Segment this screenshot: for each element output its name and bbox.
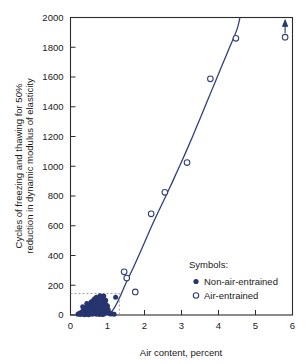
data-point-air-entrained <box>282 34 288 40</box>
y-tick-label: 200 <box>48 280 64 291</box>
legend-marker-non-air-entrained <box>193 279 198 284</box>
data-point-non-air-entrained <box>84 301 89 306</box>
legend-label-air-entrained: Air-entrained <box>204 290 258 301</box>
data-point-non-air-entrained <box>101 312 106 317</box>
x-tick-label: 1 <box>105 320 110 331</box>
data-point-air-entrained <box>162 189 168 195</box>
x-tick-label: 6 <box>290 320 295 331</box>
legend-title: Symbols: <box>189 259 228 270</box>
y-tick-label: 1000 <box>42 161 63 172</box>
chart-figure: 0200400600800100012001400160018002000 01… <box>0 0 306 364</box>
y-axis-title-line-1: Cycles of freezing and thawing for 50% <box>13 83 24 248</box>
x-tick-label: 3 <box>179 320 184 331</box>
x-tick-label: 4 <box>216 320 221 331</box>
y-axis-title-line-2: reduction in dynamic modulus of elastici… <box>24 78 35 254</box>
data-point-non-air-entrained <box>95 298 100 303</box>
y-tick-label: 2000 <box>42 12 63 23</box>
x-tick-label: 0 <box>68 320 73 331</box>
data-point-non-air-entrained <box>112 312 117 317</box>
data-point-non-air-entrained <box>113 295 118 300</box>
y-tick-label: 600 <box>48 220 64 231</box>
x-axis-title: Air content, percent <box>140 347 223 358</box>
data-point-air-entrained <box>184 160 190 166</box>
y-tick-label: 800 <box>48 190 64 201</box>
legend-marker-air-entrained <box>193 293 198 298</box>
y-tick-label: 400 <box>48 250 64 261</box>
data-point-air-entrained <box>121 269 127 275</box>
data-point-non-air-entrained <box>86 312 91 317</box>
y-tick-label: 1200 <box>42 131 63 142</box>
x-tick-label: 2 <box>142 320 147 331</box>
data-point-air-entrained <box>132 289 138 295</box>
y-tick-label: 1400 <box>42 101 63 112</box>
legend-label-non-air-entrained: Non-air-entrained <box>204 276 278 287</box>
data-point-non-air-entrained <box>103 298 108 303</box>
y-tick-label: 1800 <box>42 42 63 53</box>
data-point-air-entrained <box>233 36 239 42</box>
data-point-air-entrained <box>148 211 154 217</box>
scatter-chart: 0200400600800100012001400160018002000 01… <box>0 0 306 364</box>
data-point-non-air-entrained <box>92 302 97 307</box>
data-point-air-entrained <box>208 76 214 82</box>
data-point-non-air-entrained <box>99 302 104 307</box>
data-point-non-air-entrained <box>80 304 85 309</box>
y-tick-label: 1600 <box>42 71 63 82</box>
y-tick-label: 0 <box>58 309 63 320</box>
data-point-air-entrained <box>124 275 130 281</box>
x-tick-label: 5 <box>253 320 258 331</box>
chart-background <box>0 0 306 364</box>
